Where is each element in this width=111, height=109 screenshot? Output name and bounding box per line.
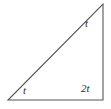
angle-label-apex: t xyxy=(85,18,88,29)
figure-canvas: t t 2t xyxy=(0,0,111,109)
triangle-shape xyxy=(0,0,111,109)
angle-label-bottom-right: 2t xyxy=(81,83,90,94)
angle-label-bottom-left: t xyxy=(23,85,26,96)
